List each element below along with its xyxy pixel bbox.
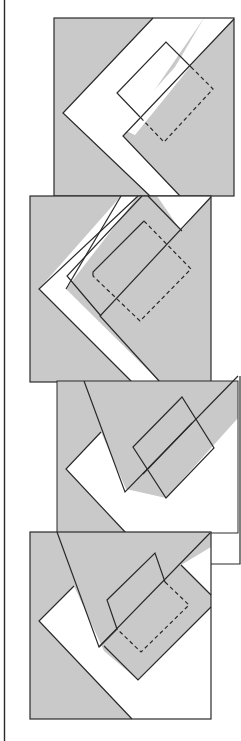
diagram-canvas [0,0,241,741]
panel-3 [57,376,238,533]
panel-2 [30,196,211,382]
panel-1 [54,18,234,196]
